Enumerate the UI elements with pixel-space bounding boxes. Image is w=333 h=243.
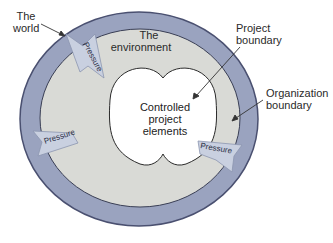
label-center-line2: project — [125, 113, 205, 125]
label-project-boundary-line1: Project — [236, 22, 282, 34]
label-organization-boundary-line1: Organization — [266, 87, 328, 99]
label-center-line3: elements — [125, 125, 205, 137]
label-world-line2: world — [13, 22, 39, 34]
label-organization-boundary-line2: boundary — [266, 99, 328, 111]
label-project-boundary-line2: boundary — [236, 34, 282, 46]
label-environment-line2: environment — [110, 41, 172, 53]
label-environment-line1: The — [110, 29, 172, 41]
label-world-line1: The — [13, 10, 39, 22]
label-controlled-elements: Controlled project elements — [125, 101, 205, 137]
label-project-boundary: Project boundary — [236, 22, 282, 46]
label-center-line1: Controlled — [125, 101, 205, 113]
label-environment: The environment — [110, 29, 172, 53]
label-organization-boundary: Organization boundary — [266, 87, 328, 111]
label-world: The world — [13, 10, 39, 34]
